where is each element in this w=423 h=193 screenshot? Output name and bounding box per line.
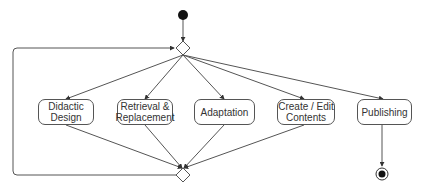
- activity-adaptation: Adaptation: [194, 99, 255, 125]
- decision-node: [176, 41, 190, 55]
- edge-adaptation-merge: [184, 125, 224, 168]
- activity-publishing: Publishing: [357, 99, 412, 125]
- edge-decision-didactic: [66, 55, 183, 99]
- edge-didactic-merge: [66, 125, 182, 168]
- activity-retrieval-replacement: Retrieval & Replacement: [117, 99, 173, 125]
- edge-decision-publishing: [183, 55, 383, 99]
- merge-node: [176, 168, 190, 182]
- activity-create-edit-contents: Create / Edit Contents: [277, 99, 335, 125]
- activity-didactic-design: Didactic Design: [38, 99, 94, 125]
- final-node-inner: [379, 171, 386, 178]
- initial-node: [178, 10, 188, 20]
- edge-create-merge: [184, 125, 304, 168]
- activity-diagram-canvas: [0, 0, 423, 193]
- edge-decision-create: [183, 55, 304, 99]
- edge-decision-adaptation: [183, 55, 224, 99]
- edge-decision-retrieval: [145, 55, 183, 99]
